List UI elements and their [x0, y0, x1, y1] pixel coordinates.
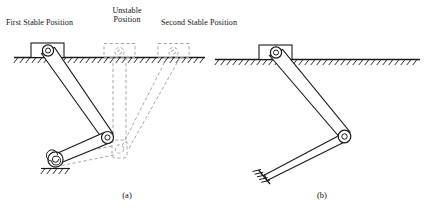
- upper-link-b: [270, 50, 351, 140]
- middle-pin-joint-a: [102, 132, 114, 144]
- top-pin-joint-a: [42, 45, 53, 56]
- diagram-canvas: [0, 0, 433, 214]
- ground-hatching-b: [215, 60, 417, 66]
- elbow-pin-joint-b: [338, 130, 351, 143]
- label-first-stable-position: First Stable Position: [6, 18, 73, 28]
- label-second-stable-position: Second Stable Position: [161, 18, 237, 28]
- ground-hatching-a: [14, 58, 204, 64]
- panel-a: [14, 43, 205, 174]
- label-unstable-position-line2: Position: [100, 15, 154, 25]
- caption-b: (b): [307, 190, 337, 200]
- ghost-second-stable-position: [122, 44, 189, 151]
- ground-support-spring-a: [41, 169, 70, 175]
- panel-b: [215, 45, 420, 184]
- top-pin-joint-b: [270, 47, 281, 58]
- figure-bistable-mechanism: First Stable Position Unstable Position …: [0, 0, 433, 214]
- lower-link-b: [265, 135, 346, 181]
- upper-link-a: [42, 48, 114, 142]
- caption-a: (a): [112, 190, 142, 200]
